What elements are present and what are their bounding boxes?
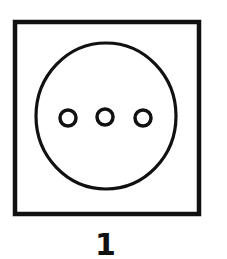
socket-plate-square xyxy=(15,22,199,214)
pin-holes xyxy=(60,109,151,126)
socket-face-circle xyxy=(36,43,176,189)
socket-diagram xyxy=(0,0,227,259)
pin-hole-3 xyxy=(135,110,151,126)
pin-hole-1 xyxy=(60,110,76,126)
pin-hole-2 xyxy=(97,109,113,125)
figure-number-label: 1 xyxy=(0,228,211,259)
